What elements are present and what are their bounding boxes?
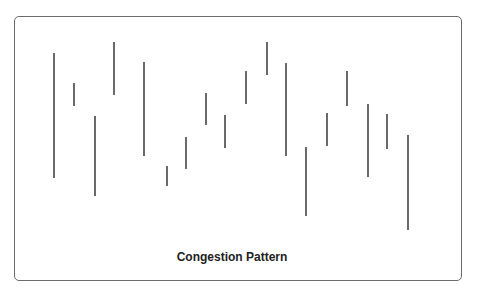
chart-title: Congestion Pattern: [0, 250, 464, 264]
